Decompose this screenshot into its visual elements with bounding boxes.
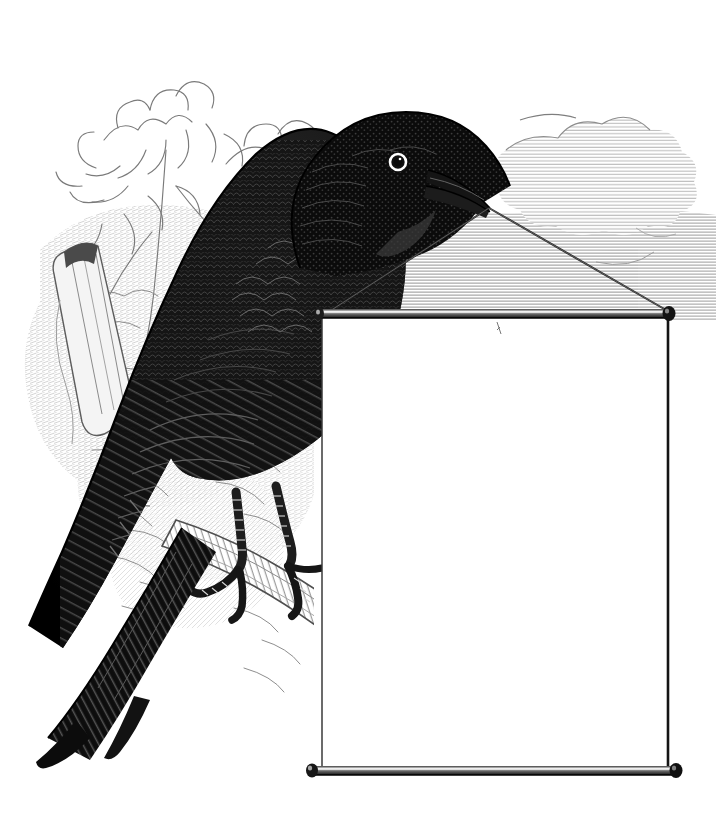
rod-knob-top-right [663, 306, 676, 321]
engraving-canvas [0, 0, 716, 829]
bird-with-blank-sign-engraving [0, 0, 716, 829]
eye [388, 152, 409, 173]
sign-text[interactable] [336, 330, 656, 758]
blank-hanging-sign[interactable] [306, 306, 683, 778]
rod-knob-bottom-right [670, 763, 683, 778]
rod-knob-bottom-left [306, 764, 318, 778]
